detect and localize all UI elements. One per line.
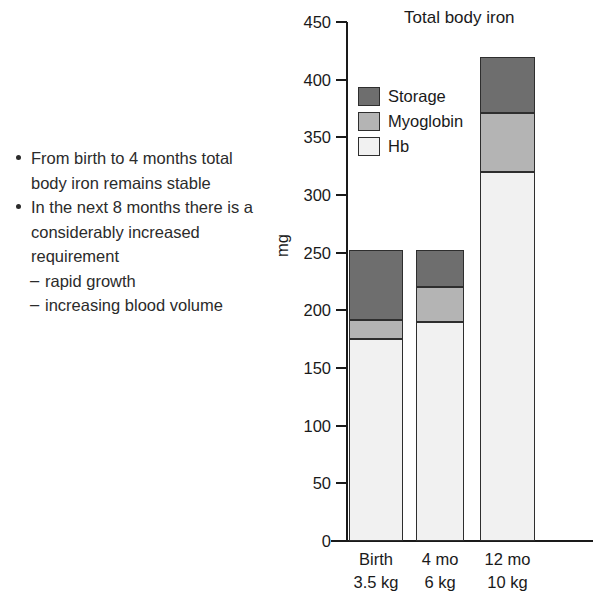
legend-label: Myoglobin <box>388 112 463 131</box>
y-axis-tick <box>336 540 347 542</box>
legend-label: Storage <box>388 87 446 106</box>
y-axis-tick-label: 0 <box>287 533 331 549</box>
y-axis-tick-label: 100 <box>287 418 331 434</box>
legend-item-myoglobin: Myoglobin <box>358 109 463 134</box>
y-axis-tick-label: 450 <box>287 14 331 30</box>
stacked-bar-chart: Total body iron 450400350300250200150100… <box>0 0 593 599</box>
legend-swatch-icon <box>358 137 380 156</box>
y-axis-tick-label: 300 <box>287 187 331 203</box>
y-axis-tick <box>336 367 347 369</box>
bar-segment-myoglobin <box>480 113 535 172</box>
bar-segment-storage <box>480 57 535 114</box>
bar-segment-storage <box>416 250 464 287</box>
bar-segment-myoglobin <box>416 287 464 322</box>
bar-12-mo <box>480 57 535 541</box>
y-axis-tick <box>336 425 347 427</box>
bar-segment-hb <box>416 322 464 541</box>
y-axis-title: mg <box>273 226 292 266</box>
legend-swatch-icon <box>358 87 380 106</box>
bar-segment-storage <box>349 250 403 319</box>
legend-item-storage: Storage <box>358 84 463 109</box>
y-axis-tick-label: 200 <box>287 302 331 318</box>
x-axis-label-weight: 10 kg <box>448 571 568 594</box>
chart-title: Total body iron <box>404 8 515 28</box>
y-axis-tick-label: 250 <box>287 245 331 261</box>
legend-label: Hb <box>388 137 409 156</box>
bar-segment-hb <box>349 339 403 541</box>
y-axis-tick-label: 350 <box>287 129 331 145</box>
bar-segment-hb <box>480 172 535 541</box>
y-axis-tick-label: 150 <box>287 360 331 376</box>
y-axis-tick <box>336 136 347 138</box>
y-axis-tick <box>336 252 347 254</box>
legend-item-hb: Hb <box>358 134 463 159</box>
bar-4-mo <box>416 250 464 541</box>
chart-legend: StorageMyoglobinHb <box>358 84 463 159</box>
y-axis-tick <box>336 482 347 484</box>
x-axis-label-primary: 12 mo <box>448 548 568 571</box>
y-axis-tick <box>336 79 347 81</box>
y-axis-tick <box>336 309 347 311</box>
y-axis-tick-label: 400 <box>287 72 331 88</box>
y-axis-tick <box>336 21 347 23</box>
bar-segment-myoglobin <box>349 320 403 340</box>
y-axis-tick-label: 50 <box>287 475 331 491</box>
y-axis-line <box>346 22 348 542</box>
bar-birth <box>349 250 403 541</box>
x-axis-label-12-mo: 12 mo10 kg <box>448 548 568 594</box>
legend-swatch-icon <box>358 112 380 131</box>
y-axis-tick <box>336 194 347 196</box>
